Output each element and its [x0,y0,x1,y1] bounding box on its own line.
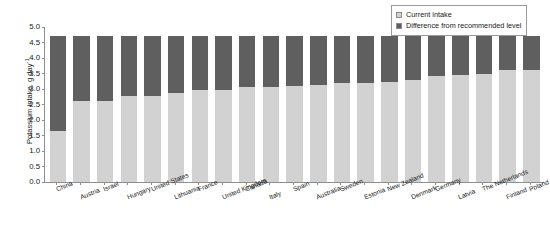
bar-segment-difference-from-recommended-level[interactable] [334,36,351,83]
bar-segment-current-intake[interactable] [50,131,67,182]
y-axis-tick: 0.5 [20,163,45,171]
bar-segment-current-intake[interactable] [168,93,185,182]
bar-column[interactable] [425,27,449,182]
bar-segment-current-intake[interactable] [286,86,303,182]
x-axis-tick-mark [127,182,128,185]
bar-stack [523,36,540,182]
x-axis-label: Australia [315,184,342,201]
bar-segment-difference-from-recommended-level[interactable] [73,36,90,101]
legend-label-current-intake: Current intake [406,11,452,19]
y-axis-tick-mark [42,27,45,28]
bar-segment-current-intake[interactable] [523,70,540,182]
bar-segment-difference-from-recommended-level[interactable] [239,36,256,87]
y-axis-tick-mark [42,73,45,74]
bar-column[interactable] [235,27,259,182]
bar-segment-current-intake[interactable] [215,90,232,182]
bar-segment-current-intake[interactable] [310,85,327,182]
bar-segment-difference-from-recommended-level[interactable] [357,36,374,83]
bar-column[interactable] [70,27,94,182]
bar-column[interactable] [259,27,283,182]
y-axis-tick-mark [42,135,45,136]
bar-column[interactable] [117,27,141,182]
y-axis-tick: 3.5 [20,70,45,78]
bar-stack [50,36,67,182]
bar-segment-difference-from-recommended-level[interactable] [405,36,422,79]
bar-column[interactable] [46,27,70,182]
bar-segment-current-intake[interactable] [428,76,445,182]
bar-stack [121,36,138,182]
bar-series-container [45,27,544,182]
bar-segment-difference-from-recommended-level[interactable] [144,36,161,96]
y-axis-tick-mark [42,58,45,59]
y-axis-tick: 4.0 [20,54,45,62]
bar-stack [357,36,374,182]
bar-segment-current-intake[interactable] [144,96,161,182]
bar-segment-difference-from-recommended-level[interactable] [215,36,232,89]
bar-segment-difference-from-recommended-level[interactable] [428,36,445,76]
bar-segment-current-intake[interactable] [263,87,280,182]
bar-segment-difference-from-recommended-level[interactable] [192,36,209,89]
bar-stack [168,36,185,182]
bar-stack [97,36,114,182]
y-axis-tick: 0.0 [20,178,45,186]
y-axis-tick-mark [42,104,45,105]
bar-segment-current-intake[interactable] [357,83,374,182]
bar-segment-current-intake[interactable] [405,80,422,182]
bar-segment-current-intake[interactable] [239,87,256,182]
bar-segment-difference-from-recommended-level[interactable] [168,36,185,93]
potassium-intake-chart: Current intake Difference from recommend… [0,0,547,226]
bar-segment-difference-from-recommended-level[interactable] [97,36,114,101]
y-axis-tick-label: 1.0 [20,147,40,155]
y-axis-tick-label: 2.5 [20,101,40,109]
bar-segment-current-intake[interactable] [121,96,138,182]
x-axis-label: Austria [79,186,101,201]
bar-segment-difference-from-recommended-level[interactable] [286,36,303,86]
x-axis-label: Estonia [363,186,386,202]
bar-column[interactable] [472,27,496,182]
bar-segment-difference-from-recommended-level[interactable] [381,36,398,82]
bar-stack [452,36,469,182]
bar-segment-current-intake[interactable] [97,101,114,182]
bar-segment-current-intake[interactable] [73,101,90,182]
bar-column[interactable] [164,27,188,182]
bar-segment-difference-from-recommended-level[interactable] [121,36,138,96]
bar-segment-current-intake[interactable] [381,82,398,182]
bar-column[interactable] [448,27,472,182]
bar-column[interactable] [141,27,165,182]
y-axis-tick-mark [42,151,45,152]
bar-column[interactable] [377,27,401,182]
bar-column[interactable] [283,27,307,182]
bar-segment-difference-from-recommended-level[interactable] [50,36,67,131]
bar-segment-difference-from-recommended-level[interactable] [452,36,469,75]
bar-column[interactable] [354,27,378,182]
bar-stack [428,36,445,182]
bar-stack [192,36,209,182]
bar-segment-current-intake[interactable] [334,83,351,182]
bar-segment-difference-from-recommended-level[interactable] [476,36,493,73]
bar-stack [405,36,422,182]
legend-swatch-current-intake [396,12,402,18]
y-axis-tick-mark [42,166,45,167]
bar-segment-current-intake[interactable] [452,75,469,182]
bar-stack [334,36,351,182]
bar-segment-current-intake[interactable] [499,70,516,182]
y-axis-tick-label: 0.0 [20,178,40,186]
bar-segment-difference-from-recommended-level[interactable] [523,36,540,69]
bar-column[interactable] [496,27,520,182]
bar-segment-current-intake[interactable] [476,74,493,183]
y-axis-tick-label: 2.0 [20,116,40,124]
bar-column[interactable] [93,27,117,182]
bar-segment-difference-from-recommended-level[interactable] [499,36,516,70]
y-axis-tick-label: 4.0 [20,54,40,62]
x-axis-tick-mark [317,182,318,185]
bar-segment-difference-from-recommended-level[interactable] [263,36,280,87]
bar-column[interactable] [306,27,330,182]
bar-column[interactable] [188,27,212,182]
bar-segment-current-intake[interactable] [192,90,209,182]
bar-column[interactable] [330,27,354,182]
bar-column[interactable] [212,27,236,182]
bar-stack [310,36,327,182]
bar-column[interactable] [401,27,425,182]
bar-column[interactable] [519,27,543,182]
bar-segment-difference-from-recommended-level[interactable] [310,36,327,85]
